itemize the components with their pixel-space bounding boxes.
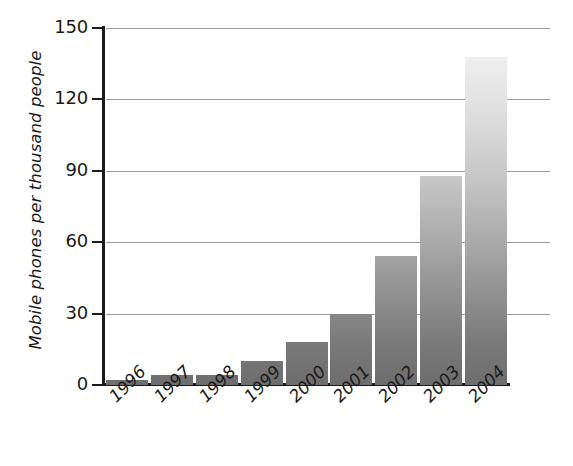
bar-chart: Mobile phones per thousand people 150120… (0, 0, 573, 466)
y-axis-line (102, 26, 105, 386)
bar (465, 57, 507, 385)
y-tick-label: 60 (26, 230, 88, 251)
y-tick-label: 30 (26, 302, 88, 323)
y-axis-title: Mobile phones per thousand people (22, 0, 48, 400)
y-tick-label: 120 (26, 87, 88, 108)
y-tick-label: 90 (26, 159, 88, 180)
bars-container (106, 28, 550, 385)
y-tick-label: 150 (26, 16, 88, 37)
y-tick-label: 0 (26, 373, 88, 394)
